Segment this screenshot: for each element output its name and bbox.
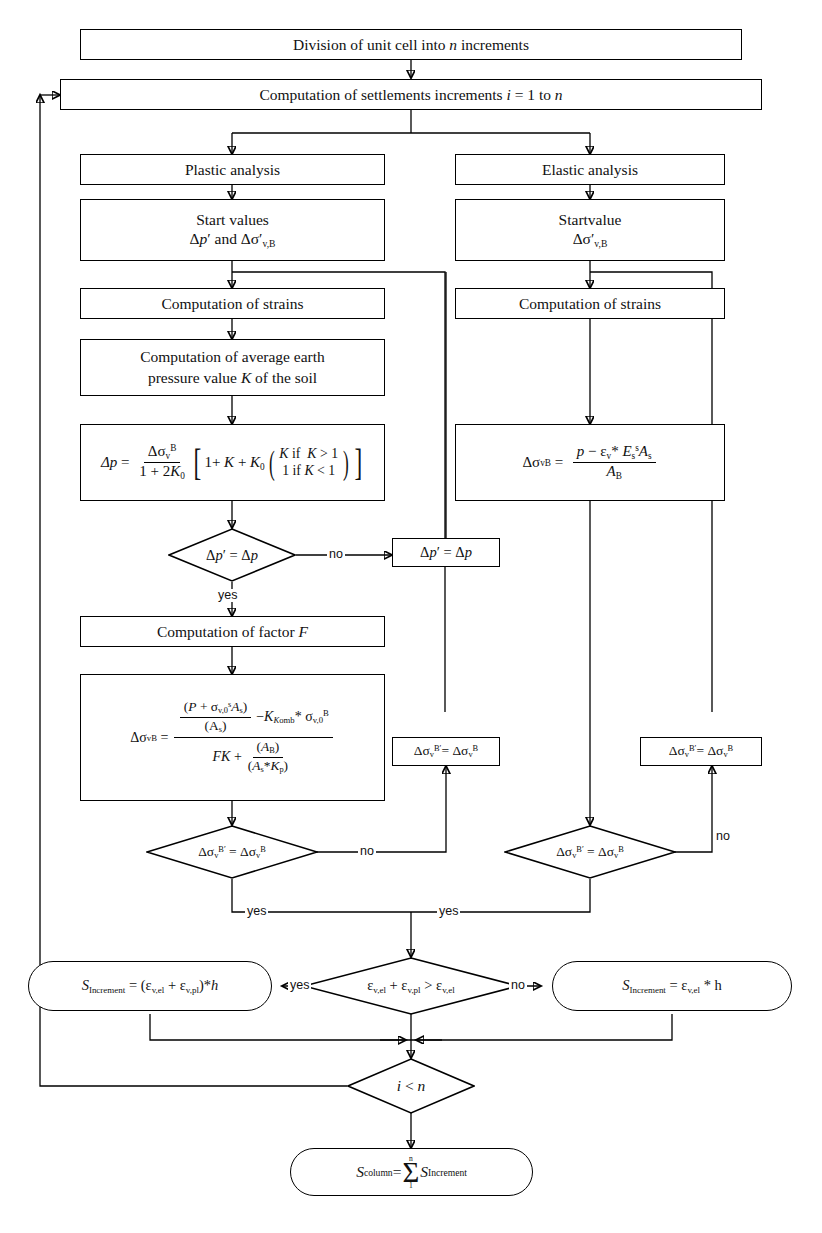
- decision-delta-p: Δp′ = Δp: [168, 528, 296, 582]
- node-assign-delta-p: Δp′ = Δp: [392, 538, 500, 567]
- node-computation-settlements-label: Computation of settlements increments i …: [259, 86, 562, 104]
- decision-sigma-left-label: ΔσvB′ = ΔσvB: [146, 825, 318, 879]
- formula-sigma-plastic-expression: ΔσvB = (P + σv,0sAs) (As) −KKomb* σv,0B …: [130, 700, 335, 775]
- decision-i-less-than-n: i < n: [347, 1058, 475, 1114]
- node-computation-strains-right: Computation of strains: [455, 288, 725, 319]
- node-s-column: Scolumn = n Σ 1 SIncrement: [290, 1148, 533, 1196]
- node-formula-elastic: ΔσvB = p − εv* EssAs AB: [455, 424, 725, 501]
- node-computation-factor-f: Computation of factor F: [80, 616, 385, 647]
- node-startvalue-line2: Δσ′v,B: [573, 229, 608, 250]
- node-plastic-analysis-label: Plastic analysis: [185, 161, 280, 179]
- node-assign-sigma-mid-label: ΔσvB′= ΔσvB: [414, 743, 478, 759]
- node-start-values-line1: Start values: [196, 210, 269, 230]
- decision-strain-compare-label: εv,el + εv,pl > εv,el: [303, 957, 519, 1015]
- node-elastic-analysis-label: Elastic analysis: [542, 161, 638, 179]
- decision-sigma-left: ΔσvB′ = ΔσvB: [146, 825, 318, 879]
- node-plastic-analysis: Plastic analysis: [80, 154, 385, 185]
- node-s-increment-elastic-label: SIncrement = εv,el * h: [622, 977, 722, 995]
- decision-i-less-than-n-label: i < n: [347, 1058, 475, 1114]
- edge-label-yes-delta-p: yes: [216, 589, 239, 602]
- formula-delta-p-expression: Δp = ΔσvB 1 + 2K0 [ 1+ K + K0 ( K if K >…: [101, 444, 364, 482]
- node-startvalue: Startvalue Δσ′v,B: [455, 199, 725, 261]
- decision-sigma-right: ΔσvB′ = ΔσvB: [504, 825, 676, 879]
- edge-label-no-sigma-right: no: [714, 830, 732, 843]
- edge-label-yes-sigma-right: yes: [437, 905, 460, 918]
- node-s-increment-plastic: SIncrement = (εv,el + εv,pl)*h: [28, 961, 272, 1011]
- node-computation-settlements: Computation of settlements increments i …: [60, 79, 762, 110]
- node-s-increment-plastic-label: SIncrement = (εv,el + εv,pl)*h: [82, 977, 219, 995]
- node-s-column-label: Scolumn = n Σ 1 SIncrement: [356, 1155, 467, 1190]
- edge-label-yes-sigma-left: yes: [245, 905, 268, 918]
- edge-label-no-sigma-left: no: [358, 845, 376, 858]
- node-average-earth-pressure: Computation of average earth pressure va…: [80, 339, 385, 396]
- decision-delta-p-label: Δp′ = Δp: [168, 528, 296, 582]
- edge-label-no-strain: no: [509, 979, 527, 992]
- node-computation-strains-left-label: Computation of strains: [161, 295, 303, 313]
- node-division: Division of unit cell into n increments: [80, 29, 742, 60]
- node-computation-factor-f-label: Computation of factor F: [157, 623, 308, 641]
- node-assign-sigma-right-label: ΔσvB′= ΔσvB: [669, 743, 733, 759]
- node-average-earth-pressure-line2: pressure value K of the soil: [148, 368, 317, 388]
- node-start-values-line2: Δp′ and Δσ′v,B: [190, 229, 276, 250]
- node-formula-sigma-plastic: ΔσvB = (P + σv,0sAs) (As) −KKomb* σv,0B …: [80, 674, 385, 801]
- node-assign-delta-p-label: Δp′ = Δp: [420, 544, 472, 561]
- node-division-label: Division of unit cell into n increments: [293, 36, 529, 54]
- node-elastic-analysis: Elastic analysis: [455, 154, 725, 185]
- node-assign-sigma-right: ΔσvB′= ΔσvB: [640, 737, 762, 766]
- decision-strain-compare: εv,el + εv,pl > εv,el: [303, 957, 519, 1015]
- edge-label-no-delta-p: no: [327, 548, 345, 561]
- node-average-earth-pressure-line1: Computation of average earth: [140, 347, 325, 367]
- flowchart-canvas: Division of unit cell into n increments …: [0, 0, 822, 1233]
- node-computation-strains-left: Computation of strains: [80, 288, 385, 319]
- node-startvalue-line1: Startvalue: [559, 210, 622, 230]
- formula-elastic-expression: ΔσvB = p − εv* EssAs AB: [522, 444, 657, 482]
- node-computation-strains-right-label: Computation of strains: [519, 295, 661, 313]
- node-formula-delta-p: Δp = ΔσvB 1 + 2K0 [ 1+ K + K0 ( K if K >…: [80, 424, 385, 501]
- node-assign-sigma-mid: ΔσvB′= ΔσvB: [392, 737, 500, 766]
- decision-sigma-right-label: ΔσvB′ = ΔσvB: [504, 825, 676, 879]
- edge-label-yes-strain: yes: [288, 979, 311, 992]
- node-s-increment-elastic: SIncrement = εv,el * h: [552, 961, 792, 1011]
- node-start-values: Start values Δp′ and Δσ′v,B: [80, 199, 385, 261]
